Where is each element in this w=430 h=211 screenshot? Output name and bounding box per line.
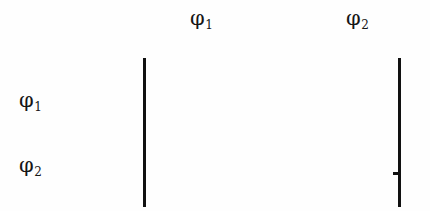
phi-symbol: φ xyxy=(190,6,205,30)
phi-symbol: φ xyxy=(19,153,34,177)
column-header-phi-2: φ2 xyxy=(346,8,369,31)
right-bar-tick-mark xyxy=(393,172,399,175)
phi-symbol: φ xyxy=(346,6,361,30)
phi-subscript: 2 xyxy=(34,165,42,179)
phi-symbol: φ xyxy=(19,88,34,112)
phi-subscript: 1 xyxy=(34,100,42,114)
right-vertical-bar xyxy=(398,58,401,207)
figure-canvas: φ1 φ2 φ1 φ2 xyxy=(0,0,430,211)
phi-subscript: 2 xyxy=(361,18,369,32)
column-header-phi-1: φ1 xyxy=(190,8,213,31)
phi-subscript: 1 xyxy=(205,18,213,32)
row-label-phi-2: φ2 xyxy=(19,155,42,178)
left-vertical-bar xyxy=(143,58,146,207)
row-label-phi-1: φ1 xyxy=(19,90,42,113)
